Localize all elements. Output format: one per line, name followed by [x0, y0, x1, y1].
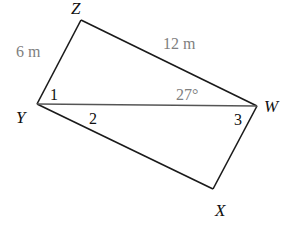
- diagonal-YW: [37, 104, 257, 106]
- rectangle-diagram: Z W X Y 6 m 12 m 1 2 3 27°: [0, 0, 299, 225]
- vertex-label-W: W: [264, 97, 280, 116]
- side-ZW: [81, 20, 257, 106]
- angle-27-label: 27°: [176, 86, 198, 103]
- side-XY: [37, 104, 213, 189]
- angle-3-label: 3: [234, 111, 242, 128]
- side-YZ: [37, 20, 81, 104]
- angle-1-label: 1: [50, 86, 58, 103]
- angle-2-label: 2: [89, 110, 97, 127]
- side-length-ZY: 6 m: [16, 43, 41, 60]
- side-length-ZW: 12 m: [163, 35, 196, 52]
- vertex-label-X: X: [214, 201, 226, 220]
- vertex-label-Z: Z: [71, 0, 81, 18]
- vertex-label-Y: Y: [16, 108, 27, 127]
